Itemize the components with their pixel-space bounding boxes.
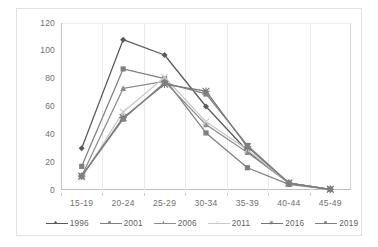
x-tick-label: 15-19 [70,198,93,208]
legend-swatch-icon [315,218,337,228]
series-line [82,40,331,190]
x-tick-mark [227,193,228,196]
series-2001 [79,66,333,192]
data-point-marker [121,66,126,71]
data-point-marker [269,220,273,224]
x-tick-label: 40-44 [277,198,300,208]
y-tick-label: 60 [45,102,55,111]
x-tick-mark [102,193,103,196]
legend-swatch-icon [261,218,283,228]
plot-area [61,23,351,190]
legend-swatch-icon [208,218,230,228]
series-1996 [79,37,334,193]
x-tick-label: 35-39 [236,198,259,208]
legend-item-2011[interactable]: 2011 [208,218,250,228]
y-tick-label: 120 [40,19,55,28]
legend-swatch-icon [46,218,68,228]
x-tick-mark [61,193,62,196]
data-point-marker [79,164,84,169]
x-tick-label: 30-34 [194,198,217,208]
x-tick-mark [310,193,311,196]
data-point-marker [245,165,250,170]
legend-swatch-icon [154,218,176,228]
legend-item-label: 2006 [178,219,197,228]
x-tick-label: 25-29 [153,198,176,208]
data-point-marker [121,116,126,121]
data-point-marker [324,221,327,224]
legend-item-2001[interactable]: 2001 [100,218,143,228]
legend-item-label: 2019 [339,219,358,228]
data-point-marker [120,37,126,43]
series-2019 [79,80,333,192]
x-tick-mark [144,193,145,196]
x-axis: 15-1920-2425-2930-3435-3940-4445-49 [61,193,351,209]
data-point-marker [79,173,84,178]
x-tick-mark [185,193,186,196]
data-point-marker [203,130,208,135]
chart-frame: 020406080100120 15-1920-2425-2930-3435-3… [16,8,362,236]
series-line [82,69,331,189]
legend-item-label: 2011 [232,219,250,228]
data-point-marker [286,180,291,185]
data-point-marker [245,143,250,148]
data-point-marker [203,91,208,96]
legend-item-1996[interactable]: 1996 [46,218,89,228]
series-line [82,83,331,189]
legend-item-label: 1996 [70,219,89,228]
legend-item-2016[interactable]: 2016 [261,218,304,228]
legend-item-label: 2001 [124,219,143,228]
series-layer [61,23,351,190]
y-tick-label: 80 [45,74,55,83]
data-point-marker [162,80,167,85]
data-point-marker [328,187,333,192]
legend-item-2019[interactable]: 2019 [315,218,358,228]
legend-swatch-icon [100,218,122,228]
y-tick-label: 20 [45,158,55,167]
legend-item-2006[interactable]: 2006 [154,218,197,228]
data-point-marker [54,221,57,224]
y-tick-label: 40 [45,130,55,139]
data-point-marker [216,220,219,223]
data-point-marker [79,145,85,151]
y-tick-label: 100 [40,46,55,55]
series-line [82,84,331,189]
data-point-marker [162,220,165,223]
data-point-marker [108,221,111,224]
chart-legend: 199620012006201120162019 [47,215,357,231]
x-tick-label: 45-49 [319,198,342,208]
x-tick-mark [268,193,269,196]
x-tick-label: 20-24 [112,198,135,208]
y-tick-label: 0 [50,186,55,195]
legend-item-label: 2016 [285,219,304,228]
series-2016 [78,80,334,193]
y-axis: 020406080100120 [25,23,55,190]
